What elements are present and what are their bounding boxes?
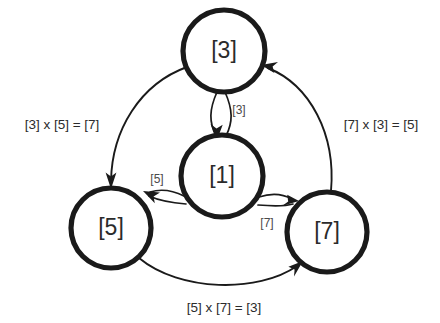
node-1-label: [1]: [209, 162, 235, 188]
edge-label-3: [3]: [232, 103, 245, 117]
cyclic-group-diagram: [3] [1] [5] [7] [3] [5] [7] [3] x [5] = …: [0, 0, 440, 323]
edge-1-to-7-path-upper: [259, 195, 292, 199]
edge-3-to-5: [106, 67, 187, 189]
edge-label-5: [5]: [150, 172, 163, 186]
edge-7-to-3-path: [268, 68, 332, 191]
edge-3-to-5-path: [111, 67, 187, 181]
node-5-label: [5]: [98, 214, 124, 240]
edge-3-to-1-path-right: [225, 92, 231, 136]
edge-1-to-5: [143, 190, 186, 204]
equation-label-5-times-7: [5] x [7] = [3]: [187, 300, 262, 315]
edge-1-to-7: [258, 195, 299, 206]
equation-label-3-times-5: [3] x [5] = [7]: [25, 117, 100, 132]
diagram-canvas: [3] [1] [5] [7] [3] [5] [7] [3] x [5] = …: [0, 0, 440, 323]
edge-1-to-5-arrowhead: [143, 191, 160, 203]
node-7[interactable]: [7]: [287, 192, 367, 272]
edge-7-to-3: [261, 62, 332, 191]
equation-label-7-times-3: [7] x [3] = [5]: [344, 117, 419, 132]
edge-label-7: [7]: [260, 216, 273, 230]
node-1[interactable]: [1]: [181, 135, 263, 217]
node-3-label: [3]: [211, 37, 237, 63]
node-5[interactable]: [5]: [71, 188, 151, 268]
node-3[interactable]: [3]: [183, 10, 265, 92]
edge-5-to-7-path: [139, 258, 297, 285]
edge-5-to-7: [139, 258, 303, 285]
node-7-label: [7]: [314, 218, 340, 244]
